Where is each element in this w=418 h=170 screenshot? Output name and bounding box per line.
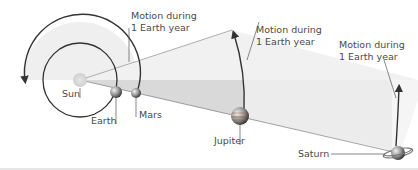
mars-icon	[131, 88, 141, 98]
mars-label: Mars	[139, 109, 162, 120]
earth-icon	[110, 86, 122, 98]
mars-annotation-line1: Motion during	[131, 10, 197, 21]
jupiter-annotation-line2: 1 Earth year	[256, 36, 315, 47]
saturn-annotation-line2: 1 Earth year	[339, 51, 398, 62]
grey-wedge-mid	[244, 80, 392, 150]
saturn-label: Saturn	[298, 148, 329, 159]
jupiter-label: Jupiter	[213, 135, 245, 146]
bottom-rule	[0, 168, 418, 170]
sun-icon	[73, 73, 87, 87]
jupiter-annotation-line1: Motion during	[256, 24, 322, 35]
mars-annotation-line2: 1 Earth year	[131, 22, 190, 33]
earth-label: Earth	[91, 115, 116, 126]
jupiter-icon	[231, 107, 249, 125]
saturn-annotation-line1: Motion during	[339, 39, 405, 50]
sun-label: Sun	[62, 88, 80, 99]
planetary-motion-diagram: Sun Earth Mars Jupiter Saturn Motion dur…	[0, 0, 418, 170]
